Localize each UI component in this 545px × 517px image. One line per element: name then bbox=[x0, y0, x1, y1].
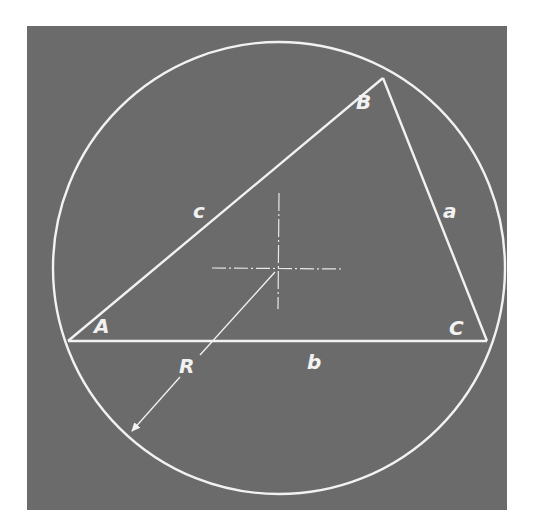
side-c-line bbox=[68, 78, 383, 341]
vertex-label-c: C bbox=[449, 316, 464, 340]
diagram-stage: A B C c a b R bbox=[0, 0, 545, 517]
vertex-label-a: A bbox=[92, 314, 109, 338]
circumscribed-triangle-diagram: A B C c a b R bbox=[0, 0, 545, 517]
side-label-a: a bbox=[443, 199, 457, 223]
side-a-line bbox=[383, 78, 487, 341]
center-crosshair-icon bbox=[212, 193, 343, 309]
side-label-b: b bbox=[307, 350, 321, 374]
side-label-c: c bbox=[193, 199, 205, 223]
radius-label: R bbox=[179, 354, 194, 378]
vertex-label-b: B bbox=[356, 90, 371, 114]
radius-arrow-icon bbox=[132, 272, 275, 431]
